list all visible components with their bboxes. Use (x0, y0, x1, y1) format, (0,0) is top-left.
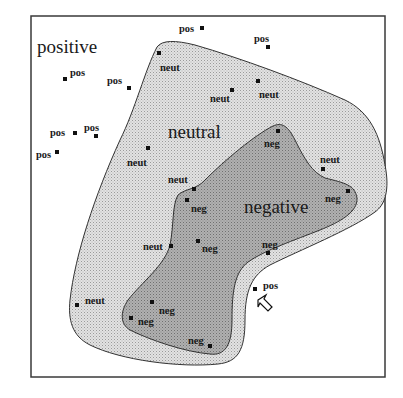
point-marker (266, 45, 270, 49)
data-point-pos: pos (36, 149, 59, 160)
point-label: neut (160, 62, 180, 73)
point-label: pos (179, 23, 194, 34)
point-marker (196, 239, 200, 243)
point-marker (150, 300, 154, 304)
point-label: pos (84, 122, 99, 133)
point-label: pos (263, 280, 278, 291)
data-point-pos: pos (63, 67, 85, 81)
point-marker (94, 134, 98, 138)
point-label: neg (264, 138, 281, 149)
point-marker (75, 303, 79, 307)
point-marker (127, 86, 131, 90)
point-label: neg (188, 335, 205, 346)
point-label: neut (85, 295, 105, 306)
point-label: neg (202, 243, 219, 254)
data-point-pos: pos (107, 75, 131, 90)
positive-region-label: positive (37, 36, 97, 57)
data-point-pos: pos (253, 280, 278, 291)
data-point-pos: pos (50, 127, 77, 138)
data-point-pos: pos (179, 23, 204, 34)
point-label: neut (168, 174, 188, 185)
mouse-pointer-icon (258, 295, 272, 311)
point-label: pos (107, 75, 122, 86)
point-marker (157, 51, 161, 55)
point-label: neg (325, 193, 342, 204)
point-marker (185, 198, 189, 202)
point-marker (73, 131, 77, 135)
point-marker (266, 251, 270, 255)
point-label: neg (191, 203, 208, 214)
point-marker (63, 77, 67, 81)
point-label: neut (127, 157, 147, 168)
point-label: pos (70, 67, 85, 78)
data-point-pos: pos (84, 122, 99, 138)
point-marker (129, 316, 133, 320)
point-label: neg (262, 239, 279, 250)
data-point-pos: pos (254, 33, 270, 49)
sentiment-region-diagram: positive neutral negative pospospospospo… (0, 0, 403, 398)
point-marker (146, 146, 150, 150)
point-marker (346, 189, 350, 193)
point-marker (192, 187, 196, 191)
point-label: pos (254, 33, 269, 44)
neutral-region-label: neutral (168, 121, 221, 142)
point-marker (169, 244, 173, 248)
negative-region-label: negative (244, 196, 308, 217)
point-marker (230, 88, 234, 92)
point-marker (321, 167, 325, 171)
point-marker (276, 129, 280, 133)
point-marker (256, 79, 260, 83)
point-label: neut (259, 89, 279, 100)
point-label: neut (210, 93, 230, 104)
point-marker (200, 26, 204, 30)
point-label: pos (36, 149, 51, 160)
point-label: pos (50, 127, 65, 138)
point-label: neut (143, 241, 163, 252)
point-marker (253, 287, 257, 291)
point-marker (55, 150, 59, 154)
point-marker (208, 344, 212, 348)
point-label: neg (159, 305, 176, 316)
point-label: neut (320, 154, 340, 165)
point-label: neg (138, 316, 155, 327)
